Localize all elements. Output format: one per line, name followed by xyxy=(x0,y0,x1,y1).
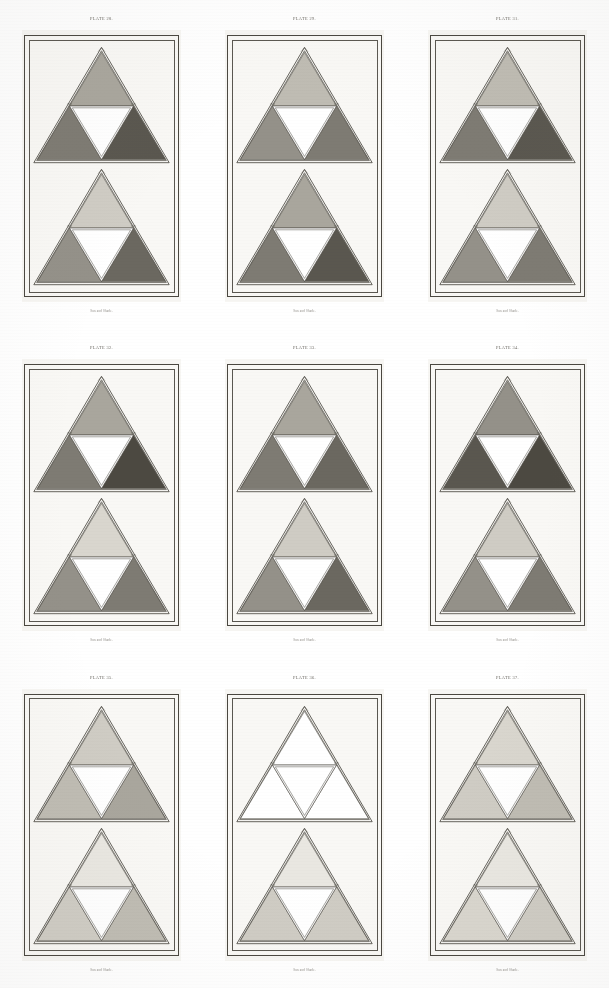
sub-triangle-top xyxy=(69,52,133,106)
plate-4[interactable]: Plate 32.Sun and Shade. xyxy=(22,359,181,631)
plate-caption: Sun and Shade. xyxy=(225,638,384,642)
figure-wrapper-lower xyxy=(234,825,375,947)
figure-stack xyxy=(234,703,375,947)
plate-1[interactable]: Plate 28.Sun and Shade. xyxy=(22,30,181,302)
plate-cell-1: Plate 28.Sun and Shade. xyxy=(0,0,203,329)
figure-stack xyxy=(234,373,375,617)
sub-triangle-top xyxy=(272,833,336,887)
plate-5[interactable]: Plate 33.Sun and Shade. xyxy=(225,359,384,631)
plate-frame-outer xyxy=(430,694,585,956)
sub-triangle-top xyxy=(475,504,539,558)
figure-wrapper-lower xyxy=(437,825,578,947)
plate-cell-9: Plate 37.Sun and Shade. xyxy=(406,659,609,988)
figure-stack xyxy=(234,44,375,288)
plate-title: Plate 35. xyxy=(22,675,181,680)
figure-wrapper-lower xyxy=(234,166,375,288)
figure-upper xyxy=(234,373,375,495)
plate-9[interactable]: Plate 37.Sun and Shade. xyxy=(428,689,587,961)
plate-title: Plate 33. xyxy=(225,345,384,350)
plate-title: Plate 29. xyxy=(225,16,384,21)
plate-caption: Sun and Shade. xyxy=(428,309,587,313)
sub-triangle-top xyxy=(69,833,133,887)
plate-7[interactable]: Plate 35.Sun and Shade. xyxy=(22,689,181,961)
sub-triangle-top xyxy=(475,174,539,228)
plate-8[interactable]: Plate 36.Sun and Shade. xyxy=(225,689,384,961)
figure-upper xyxy=(437,703,578,825)
figure-upper xyxy=(31,703,172,825)
plate-6[interactable]: Plate 34.Sun and Shade. xyxy=(428,359,587,631)
figure-lower xyxy=(437,166,578,288)
plate-caption: Sun and Shade. xyxy=(428,638,587,642)
figure-wrapper-upper xyxy=(437,44,578,166)
plate-grid: Plate 28.Sun and Shade.Plate 29.Sun and … xyxy=(0,0,609,988)
plate-title: Plate 32. xyxy=(22,345,181,350)
plate-cell-2: Plate 29.Sun and Shade. xyxy=(203,0,406,329)
figure-upper xyxy=(437,44,578,166)
plate-2[interactable]: Plate 29.Sun and Shade. xyxy=(225,30,384,302)
figure-wrapper-upper xyxy=(234,373,375,495)
plate-caption: Sun and Shade. xyxy=(22,968,181,972)
plate-cell-7: Plate 35.Sun and Shade. xyxy=(0,659,203,988)
figure-wrapper-upper xyxy=(437,373,578,495)
plate-frame-outer xyxy=(227,35,382,297)
figure-upper xyxy=(234,703,375,825)
figure-upper xyxy=(234,44,375,166)
figure-lower xyxy=(437,825,578,947)
plate-title: Plate 37. xyxy=(428,675,587,680)
figure-stack xyxy=(437,703,578,947)
plate-cell-3: Plate 31.Sun and Shade. xyxy=(406,0,609,329)
plate-title: Plate 34. xyxy=(428,345,587,350)
figure-lower xyxy=(234,166,375,288)
plate-cell-6: Plate 34.Sun and Shade. xyxy=(406,329,609,658)
sub-triangle-top xyxy=(69,174,133,228)
sub-triangle-top xyxy=(69,382,133,436)
plate-caption: Sun and Shade. xyxy=(22,309,181,313)
plate-frame-outer xyxy=(24,35,179,297)
plate-caption: Sun and Shade. xyxy=(428,968,587,972)
figure-upper xyxy=(31,373,172,495)
sub-triangle-top xyxy=(272,174,336,228)
plate-frame-outer xyxy=(227,364,382,626)
sub-triangle-top xyxy=(272,382,336,436)
figure-stack xyxy=(31,703,172,947)
plate-caption: Sun and Shade. xyxy=(225,309,384,313)
sub-triangle-top xyxy=(475,833,539,887)
plate-caption: Sun and Shade. xyxy=(225,968,384,972)
plate-sheet: Plate 28.Sun and Shade.Plate 29.Sun and … xyxy=(0,0,609,988)
plate-frame-outer xyxy=(24,694,179,956)
figure-upper xyxy=(31,44,172,166)
plate-cell-4: Plate 32.Sun and Shade. xyxy=(0,329,203,658)
figure-stack xyxy=(31,44,172,288)
figure-lower xyxy=(31,166,172,288)
figure-wrapper-upper xyxy=(437,703,578,825)
sub-triangle-top xyxy=(69,504,133,558)
plate-frame-outer xyxy=(227,694,382,956)
plate-title: Plate 28. xyxy=(22,16,181,21)
figure-lower xyxy=(31,495,172,617)
figure-stack xyxy=(437,44,578,288)
plate-frame-outer xyxy=(24,364,179,626)
plate-title: Plate 36. xyxy=(225,675,384,680)
figure-lower xyxy=(31,825,172,947)
figure-stack xyxy=(31,373,172,617)
figure-wrapper-lower xyxy=(437,166,578,288)
sub-triangle-top xyxy=(69,711,133,765)
figure-lower xyxy=(437,495,578,617)
figure-upper xyxy=(437,373,578,495)
sub-triangle-top xyxy=(272,504,336,558)
sub-triangle-top xyxy=(272,52,336,106)
figure-wrapper-upper xyxy=(31,44,172,166)
plate-frame-outer xyxy=(430,35,585,297)
plate-title: Plate 31. xyxy=(428,16,587,21)
figure-wrapper-upper xyxy=(31,373,172,495)
figure-lower xyxy=(234,825,375,947)
sub-triangle-top xyxy=(475,52,539,106)
figure-wrapper-lower xyxy=(437,495,578,617)
plate-3[interactable]: Plate 31.Sun and Shade. xyxy=(428,30,587,302)
figure-stack xyxy=(437,373,578,617)
figure-wrapper-upper xyxy=(234,703,375,825)
figure-wrapper-lower xyxy=(234,495,375,617)
sub-triangle-top xyxy=(272,711,336,765)
plate-caption: Sun and Shade. xyxy=(22,638,181,642)
figure-wrapper-lower xyxy=(31,495,172,617)
